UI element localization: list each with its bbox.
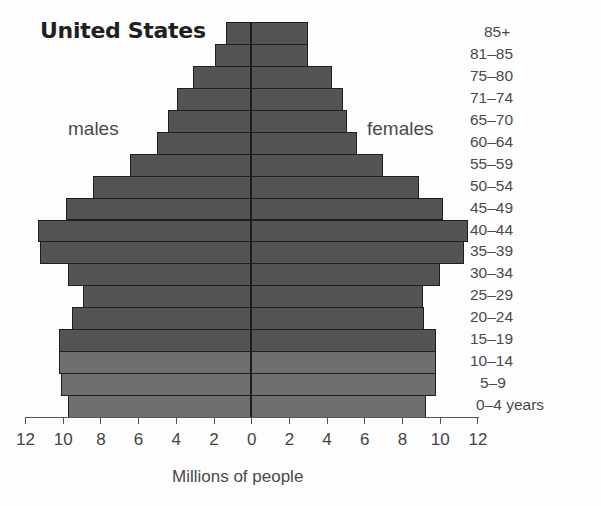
x-tick-label: 12 xyxy=(16,430,35,450)
x-tick xyxy=(214,417,215,424)
x-tick-label: 2 xyxy=(285,430,294,450)
x-tick-label: 10 xyxy=(54,430,73,450)
bar-females xyxy=(251,22,308,45)
x-tick-label: 10 xyxy=(431,430,450,450)
bar-females xyxy=(251,373,436,396)
bar-males xyxy=(68,263,252,286)
x-tick xyxy=(402,417,403,424)
bar-males xyxy=(83,285,252,308)
x-tick-label: 2 xyxy=(209,430,218,450)
age-group-label: 71–74 xyxy=(470,89,513,107)
x-tick xyxy=(327,417,328,424)
age-group-label: 5–9 xyxy=(480,374,506,392)
age-group-label: 10–14 xyxy=(470,352,513,370)
population-pyramid-chart: United States males females 85+81–8575–8… xyxy=(0,0,601,506)
x-axis-label: Millions of people xyxy=(172,467,303,487)
x-tick-label: 6 xyxy=(360,430,369,450)
x-tick xyxy=(251,417,252,424)
bar-males xyxy=(226,22,252,45)
bar-females xyxy=(251,176,419,199)
bar-females xyxy=(251,154,383,177)
x-tick xyxy=(63,417,64,424)
age-group-label: 35–39 xyxy=(470,242,513,260)
bar-males xyxy=(215,44,252,67)
bar-females xyxy=(251,395,426,418)
age-group-label: 30–34 xyxy=(470,264,513,282)
bar-females xyxy=(251,285,423,308)
age-group-label: 55–59 xyxy=(470,155,513,173)
bar-females xyxy=(251,44,308,67)
bar-males xyxy=(157,132,252,155)
x-tick xyxy=(440,417,441,424)
chart-title: United States xyxy=(40,18,206,43)
bar-females xyxy=(251,88,343,111)
bar-males xyxy=(168,110,252,133)
x-tick-label: 0 xyxy=(247,430,256,450)
age-group-label: 50–54 xyxy=(470,177,513,195)
age-group-label: 81–85 xyxy=(470,45,513,63)
bar-males xyxy=(193,66,252,89)
age-group-label: 15–19 xyxy=(470,330,513,348)
bar-males xyxy=(59,351,252,374)
x-tick-label: 8 xyxy=(96,430,105,450)
age-group-label: 0–4 years xyxy=(476,396,544,414)
males-label: males xyxy=(68,118,119,140)
x-tick-label: 4 xyxy=(172,430,181,450)
x-tick xyxy=(364,417,365,424)
x-tick xyxy=(25,417,26,424)
bar-females xyxy=(251,132,357,155)
bar-males xyxy=(93,176,252,199)
x-tick xyxy=(138,417,139,424)
bar-females xyxy=(251,263,440,286)
bar-males xyxy=(40,241,252,264)
x-tick-label: 6 xyxy=(134,430,143,450)
x-tick-label: 12 xyxy=(468,430,487,450)
bar-males xyxy=(61,373,252,396)
age-group-label: 65–70 xyxy=(470,111,513,129)
x-tick xyxy=(477,417,478,424)
center-axis-line xyxy=(250,22,251,418)
bar-females xyxy=(251,220,468,243)
bar-males xyxy=(68,395,252,418)
x-tick xyxy=(100,417,101,424)
bar-females xyxy=(251,351,436,374)
bar-males xyxy=(177,88,252,111)
bar-females xyxy=(251,241,464,264)
age-group-label: 40–44 xyxy=(470,221,513,239)
age-group-label: 25–29 xyxy=(470,286,513,304)
bar-males xyxy=(130,154,252,177)
females-label: females xyxy=(367,118,434,140)
age-group-label: 85+ xyxy=(484,23,510,41)
age-group-label: 45–49 xyxy=(470,199,513,217)
age-group-label: 20–24 xyxy=(470,308,513,326)
bar-males xyxy=(66,198,252,221)
bar-males xyxy=(59,329,252,352)
age-group-label: 60–64 xyxy=(470,133,513,151)
bar-females xyxy=(251,307,424,330)
bar-females xyxy=(251,66,332,89)
x-tick-label: 8 xyxy=(398,430,407,450)
bar-females xyxy=(251,110,347,133)
bar-males xyxy=(72,307,252,330)
bar-females xyxy=(251,198,443,221)
bar-males xyxy=(38,220,252,243)
x-tick-label: 4 xyxy=(322,430,331,450)
x-tick xyxy=(289,417,290,424)
x-tick xyxy=(176,417,177,424)
bar-females xyxy=(251,329,436,352)
age-group-label: 75–80 xyxy=(470,67,513,85)
